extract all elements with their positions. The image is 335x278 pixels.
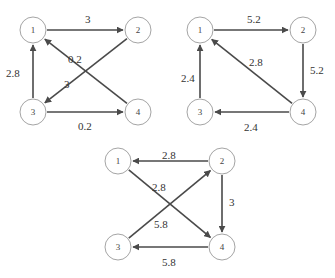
edge-weight-label: 5.2: [247, 13, 261, 25]
edge-weight-label: 5.8: [162, 256, 176, 268]
edge-weight-label: 3: [85, 13, 91, 25]
edge-weight-label: 3: [229, 196, 235, 208]
node-label: 1: [198, 25, 203, 35]
node-3: 3: [187, 99, 213, 125]
node-label: 3: [116, 242, 121, 252]
edge-weight-label: 2.8: [249, 56, 263, 68]
node-1: 1: [105, 148, 131, 174]
edge-weight-label: 5.8: [154, 218, 168, 230]
edge-2-to-4: 5.2: [303, 44, 324, 97]
node-2: 2: [125, 17, 151, 43]
node-4: 4: [209, 234, 235, 260]
edge-weight-label: 0.2: [68, 53, 82, 65]
edge-arrow-icon: [212, 39, 292, 103]
edge-weight-label: 2.8: [6, 67, 20, 79]
edge-weight-label: 2.4: [181, 72, 195, 84]
node-1: 1: [187, 17, 213, 43]
edge-1-to-2: 3: [47, 13, 123, 30]
node-label: 4: [301, 107, 306, 117]
node-label: 1: [116, 156, 121, 166]
graph-c: 2.82.835.85.81234: [105, 148, 235, 268]
node-label: 3: [198, 107, 203, 117]
edge-weight-label: 0.2: [78, 120, 92, 132]
node-3: 3: [20, 99, 46, 125]
node-1: 1: [20, 17, 46, 43]
graph-diagram-canvas: 332.80.20.21234 5.25.22.82.42.41234 2.82…: [0, 0, 335, 278]
edge-2-to-4: 3: [222, 175, 235, 232]
node-2: 2: [209, 148, 235, 174]
edge-3-to-1: 2.8: [6, 45, 33, 98]
edge-4-to-1: 2.8: [212, 39, 292, 103]
edge-weight-label: 2.8: [152, 181, 166, 193]
edge-weight-label: 2.4: [244, 121, 258, 133]
node-2: 2: [290, 17, 316, 43]
edge-weight-label: 3: [64, 78, 70, 90]
graph-a: 332.80.20.21234: [6, 13, 151, 132]
edge-weight-label: 5.2: [310, 64, 324, 76]
edge-3-to-1: 2.4: [181, 45, 200, 98]
edge-3-to-4: 0.2: [47, 112, 123, 132]
node-4: 4: [125, 99, 151, 125]
graph-b: 5.25.22.82.42.41234: [181, 13, 324, 133]
node-3: 3: [105, 234, 131, 260]
node-4: 4: [290, 99, 316, 125]
node-label: 1: [31, 25, 36, 35]
node-label: 4: [220, 242, 225, 252]
edge-4-to-3: 5.8: [133, 247, 208, 268]
node-label: 4: [136, 107, 141, 117]
node-label: 2: [136, 25, 141, 35]
node-label: 2: [301, 25, 306, 35]
edge-4-to-3: 2.4: [215, 112, 289, 133]
node-label: 2: [220, 156, 225, 166]
edge-2-to-1: 2.8: [133, 149, 208, 161]
node-label: 3: [31, 107, 36, 117]
edge-1-to-2: 5.2: [214, 13, 288, 30]
edge-weight-label: 2.8: [162, 149, 176, 161]
